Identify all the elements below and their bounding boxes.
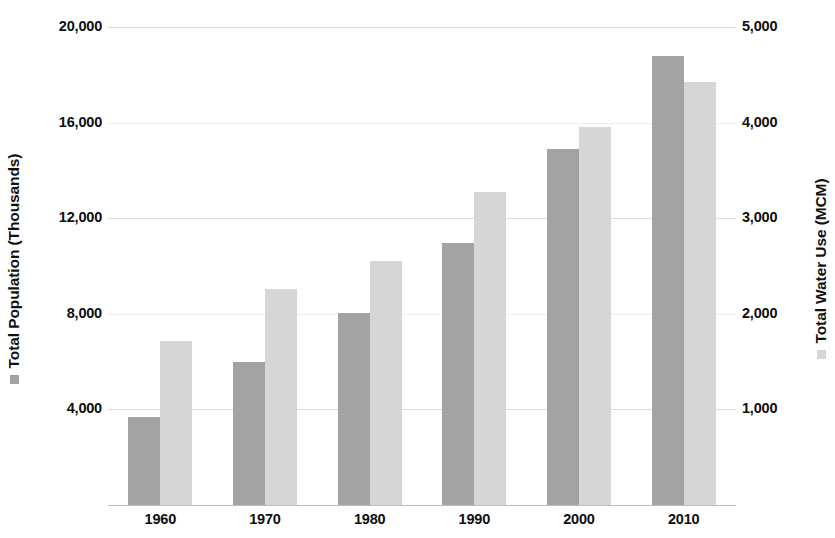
bar-population-1960 [128,417,160,505]
x-axis-label-1980: 1980 [317,511,422,527]
bar-population-1990 [442,243,474,505]
y-axis-left-title-text: Total Population (Thousands) [5,154,23,369]
legend-swatch-water-use [817,350,826,359]
y-axis-left-ticks: 4,0008,00012,00016,00020,000 [36,0,102,538]
bar-water-use-1990 [474,192,506,505]
y-axis-right-ticks: 1,0002,0003,0004,0005,000 [742,0,808,538]
bar-water-use-1960 [160,341,192,505]
y-axis-left-tick-label: 20,000 [59,18,102,34]
x-axis-label-1960: 1960 [108,511,213,527]
x-axis-labels: 196019701980199020002010 [108,511,736,538]
y-axis-right-title: Total Water Use (MCM) [812,59,830,479]
y-axis-left-tick-label: 12,000 [59,209,102,225]
x-axis-label-1970: 1970 [213,511,318,527]
y-axis-right-tick-label: 4,000 [742,114,777,130]
y-axis-right-tick-label: 1,000 [742,400,777,416]
bar-chart: Total Population (Thousands) Total Water… [0,0,835,538]
gridline [108,27,736,28]
plot-area [108,8,736,505]
legend-swatch-population [10,375,19,384]
y-axis-left-title: Total Population (Thousands) [5,59,23,479]
bar-water-use-2010 [684,82,716,505]
gridline [108,218,736,219]
y-axis-right-tick-label: 2,000 [742,305,777,321]
y-axis-left-tick-label: 4,000 [67,400,102,416]
bar-water-use-1980 [370,261,402,505]
y-axis-left-tick-label: 8,000 [67,305,102,321]
bar-water-use-2000 [579,127,611,505]
gridline [108,314,736,315]
gridline [108,409,736,410]
x-axis-line [108,505,736,506]
bar-population-2010 [652,56,684,505]
x-axis-label-2000: 2000 [527,511,632,527]
gridline [108,123,736,124]
y-axis-right-title-text: Total Water Use (MCM) [812,179,830,344]
bar-population-2000 [547,149,579,505]
x-axis-label-2010: 2010 [631,511,736,527]
y-axis-left-tick-label: 16,000 [59,114,102,130]
y-axis-right-tick-label: 3,000 [742,209,777,225]
bar-water-use-1970 [265,289,297,505]
bar-population-1970 [233,362,265,505]
y-axis-right-tick-label: 5,000 [742,18,777,34]
bar-population-1980 [338,313,370,505]
x-axis-label-1990: 1990 [422,511,527,527]
